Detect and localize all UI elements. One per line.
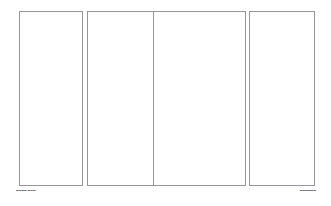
right-spread [153,11,315,186]
left-spread [19,11,155,186]
page-panel-1-face [20,12,82,185]
page-panel-2-face [88,12,154,185]
page-panel-3[interactable] [153,11,246,186]
page-panel-4[interactable] [249,11,315,186]
page-panel-3-face [154,12,245,185]
scanned-sheet: ▬▬▬▬ ▬▬▬ ▬▬▬▬▬▬ [0,0,331,206]
footer-caption-right: ▬▬▬▬▬▬ [270,188,316,193]
page-panel-2[interactable] [87,11,155,186]
page-panel-4-face [250,12,314,185]
page-panel-1[interactable] [19,11,83,186]
footer-caption-left: ▬▬▬▬ ▬▬▬ [16,188,56,193]
